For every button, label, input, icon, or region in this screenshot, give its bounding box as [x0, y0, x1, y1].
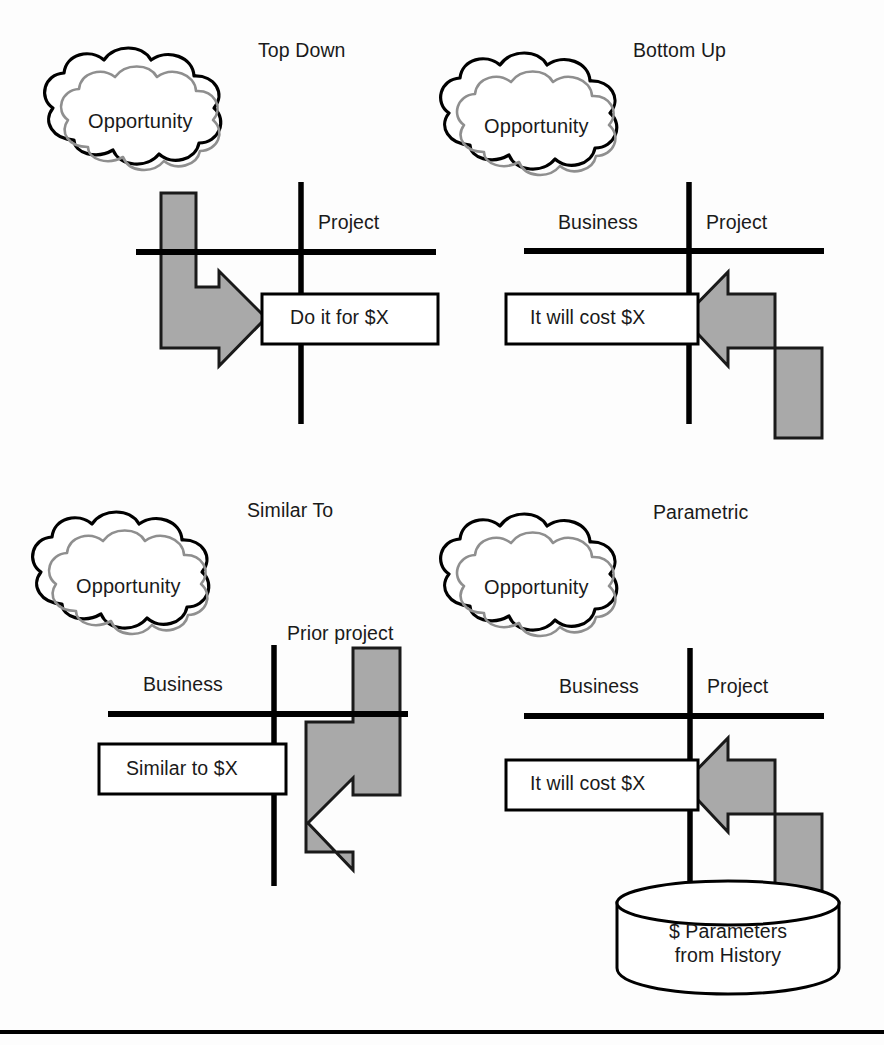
cloud-label-bottom-up: Opportunity: [484, 116, 589, 136]
panel-similar-to: [33, 512, 408, 886]
cloud-label-top-down: Opportunity: [88, 111, 193, 131]
box-text-similar-to: Similar to $X: [126, 759, 238, 779]
panel-title-parametric: Parametric: [653, 503, 748, 523]
parametric-arrow: [683, 738, 822, 905]
database-cylinder-line1: $ Parameters: [628, 920, 828, 944]
axis-label-left-similar-to: Business: [143, 675, 223, 695]
panel-title-top-down: Top Down: [258, 41, 346, 61]
box-text-top-down: Do it for $X: [290, 308, 389, 328]
box-text-bottom-up: It will cost $X: [530, 308, 645, 328]
bottom-up-arrow: [683, 272, 822, 438]
axis-label-right-similar-to: Prior project: [287, 624, 393, 644]
axis-label-left-parametric: Business: [559, 677, 639, 697]
axis-label-right-top-down: Project: [318, 213, 379, 233]
panel-title-similar-to: Similar To: [247, 501, 333, 521]
panel-bottom-up: [441, 53, 824, 438]
cloud-icon-bottom-up: [441, 53, 617, 175]
database-cylinder-text: $ Parameters from History: [628, 920, 828, 968]
top-down-arrow: [161, 193, 266, 366]
database-cylinder-line2: from History: [628, 944, 828, 968]
cloud-icon-parametric: [441, 514, 617, 636]
similar-to-arrow: [306, 648, 400, 870]
panel-title-bottom-up: Bottom Up: [633, 41, 726, 61]
axis-label-right-parametric: Project: [707, 677, 768, 697]
cloud-icon-top-down: [45, 48, 221, 170]
diagram-canvas: Top Down Opportunity Project Do it for $…: [0, 0, 884, 1045]
panel-top-down: [45, 48, 438, 424]
cloud-icon-similar-to: [33, 512, 209, 634]
diagram-vector-layer: [0, 0, 884, 1045]
cloud-label-parametric: Opportunity: [484, 577, 589, 597]
axis-label-left-bottom-up: Business: [558, 213, 638, 233]
cloud-label-similar-to: Opportunity: [76, 576, 181, 596]
box-text-parametric: It will cost $X: [530, 774, 645, 794]
axis-label-right-bottom-up: Project: [706, 213, 767, 233]
